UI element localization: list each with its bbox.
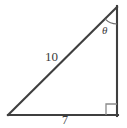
triangle-diagram: 10 7 θ (0, 0, 127, 128)
triangle-graphic (0, 0, 127, 128)
angle-label: θ (102, 25, 107, 36)
hypotenuse-line (8, 7, 117, 115)
base-label: 7 (62, 114, 68, 126)
right-angle-marker-icon (106, 104, 117, 115)
hypotenuse-label: 10 (45, 50, 58, 63)
